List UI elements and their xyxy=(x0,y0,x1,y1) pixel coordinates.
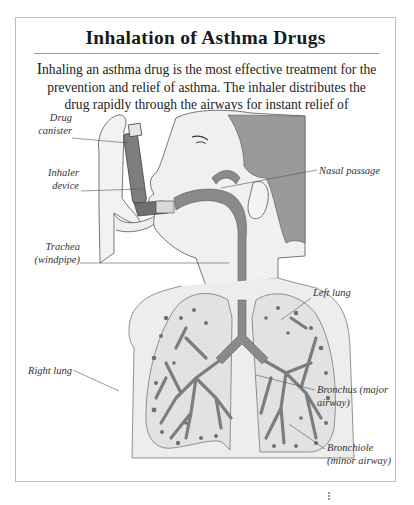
label-right-lung: Right lung xyxy=(28,364,72,377)
label-left-lung: Left lung xyxy=(313,286,351,299)
label-nasal-passage: Nasal passage xyxy=(319,164,380,177)
label-bronchiole: Bronchiole (minor airway) xyxy=(327,441,391,467)
more-options-icon[interactable] xyxy=(328,492,330,502)
label-bronchus: Bronchus (major airway) xyxy=(317,383,388,409)
figure-frame: Inhalation of Asthma Drugs Inhaling an a… xyxy=(15,17,396,482)
label-trachea: Trachea (windpipe) xyxy=(26,240,80,266)
label-inhaler-device: Inhaler device xyxy=(34,166,79,192)
label-drug-canister: Drug canister xyxy=(30,111,72,137)
